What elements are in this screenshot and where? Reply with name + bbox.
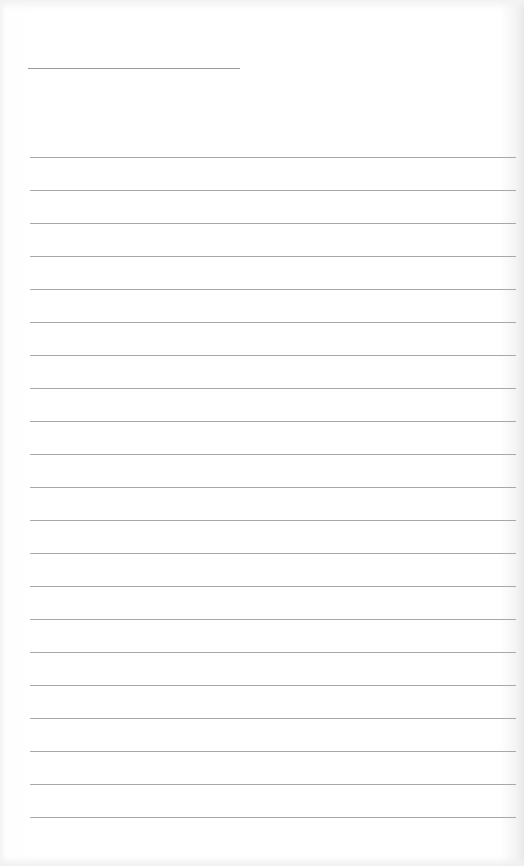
ruled-line xyxy=(30,223,516,224)
ruled-line xyxy=(30,322,516,323)
ruled-line xyxy=(30,718,516,719)
notepaper-sheet xyxy=(0,0,524,866)
ruled-line xyxy=(30,520,516,521)
ruled-line xyxy=(30,190,516,191)
ruled-line xyxy=(30,157,516,158)
ruled-line xyxy=(30,487,516,488)
ruled-line xyxy=(30,388,516,389)
ruled-line xyxy=(30,652,516,653)
ruled-line xyxy=(30,685,516,686)
paper-top-edge-shadow xyxy=(0,0,524,10)
ruled-line xyxy=(30,355,516,356)
ruled-line xyxy=(30,256,516,257)
ruled-line xyxy=(30,289,516,290)
ruled-line xyxy=(30,784,516,785)
ruled-line xyxy=(30,586,516,587)
ruled-line xyxy=(30,421,516,422)
paper-bottom-edge-shadow xyxy=(0,856,524,866)
ruled-line xyxy=(30,553,516,554)
ruled-line xyxy=(30,817,516,818)
ruled-line xyxy=(30,751,516,752)
ruled-line xyxy=(30,454,516,455)
title-underline xyxy=(28,68,240,69)
ruled-line xyxy=(30,619,516,620)
